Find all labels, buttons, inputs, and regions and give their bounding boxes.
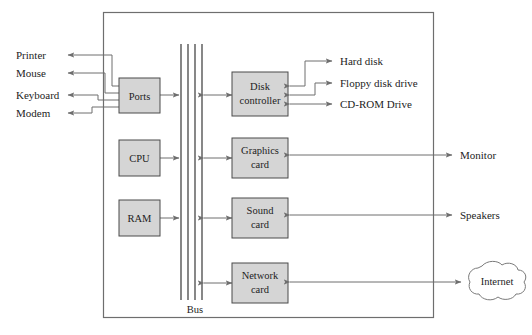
sound-card-label-1: Sound [247, 205, 275, 216]
label-keyboard: Keyboard [16, 89, 60, 101]
label-hard-disk: Hard disk [340, 55, 384, 67]
label-modem: Modem [16, 107, 51, 119]
cpu-label: CPU [129, 153, 150, 164]
network-card-label-2: card [251, 284, 270, 295]
network-card-box [232, 263, 288, 303]
label-floppy-disk-drive: Floppy disk drive [340, 77, 418, 89]
ports-label: Ports [129, 91, 151, 102]
wire-keyboard [68, 95, 119, 100]
component-ram: RAM [119, 200, 160, 236]
label-mouse: Mouse [16, 67, 46, 79]
wire-floppy-disk-drive [290, 83, 332, 95]
wire-printer [68, 55, 119, 86]
label-printer: Printer [16, 49, 46, 61]
bus-label: Bus [187, 304, 203, 315]
label-speakers: Speakers [460, 209, 500, 221]
component-disk-controller: Disk controller [232, 72, 288, 116]
sound-card-label-2: card [251, 219, 270, 230]
wire-mouse [68, 73, 119, 93]
internet-cloud: Internet [469, 261, 526, 299]
graphics-card-label-2: card [251, 159, 270, 170]
wire-modem [68, 107, 119, 113]
graphics-card-label-1: Graphics [241, 145, 279, 156]
computer-block-diagram: Bus Printer Mouse Keyboard Modem Ports [0, 0, 532, 335]
component-ports: Ports [119, 78, 160, 113]
component-graphics-card: Graphics card [232, 138, 288, 178]
disk-controller-label-1: Disk [250, 81, 271, 92]
storage-wires [290, 61, 332, 104]
component-network-card: Network card [232, 263, 288, 303]
ram-label: RAM [128, 213, 153, 224]
disk-controller-label-2: controller [240, 95, 281, 106]
left-peripheral-wires [68, 55, 119, 113]
diagram-page: Bus Printer Mouse Keyboard Modem Ports [0, 0, 532, 335]
component-cpu: CPU [119, 140, 160, 176]
bus-lines [181, 44, 202, 300]
network-card-label-1: Network [242, 270, 279, 281]
wire-hard-disk [290, 61, 332, 86]
label-monitor: Monitor [460, 149, 496, 161]
component-sound-card: Sound card [232, 198, 288, 238]
sound-card-box [232, 198, 288, 238]
graphics-card-box [232, 138, 288, 178]
label-cd-rom-drive: CD-ROM Drive [340, 98, 412, 110]
disk-controller-box [232, 72, 288, 116]
internet-label: Internet [481, 276, 514, 287]
